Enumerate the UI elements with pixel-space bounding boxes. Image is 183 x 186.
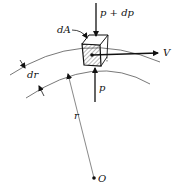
- center-point: [92, 176, 96, 180]
- bottom-pressure-label: p: [99, 82, 106, 93]
- diagram-canvas: p + dp p dA V dr r O: [0, 0, 183, 186]
- top-pressure-label: p + dp: [100, 7, 135, 18]
- area-label: dA: [57, 24, 71, 35]
- velocity-label: V: [163, 47, 172, 58]
- area-leader-arrow: [72, 30, 87, 38]
- velocity-arrow: [92, 53, 158, 55]
- inner-streamline: [26, 71, 150, 98]
- thickness-label: dr: [27, 69, 39, 80]
- center-label: O: [98, 173, 106, 184]
- dr-arrow-top: [20, 60, 25, 68]
- radius-line: [68, 74, 94, 178]
